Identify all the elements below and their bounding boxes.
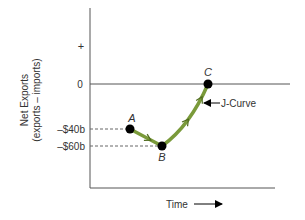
x-axis-label: Time [166, 199, 188, 210]
y-tick-plus: + [78, 40, 84, 52]
point-label-b: B [158, 151, 165, 163]
point-c [204, 80, 213, 89]
y-axis-label-line2: (exports – imports) [31, 58, 42, 141]
point-b [158, 142, 167, 151]
y-axis-label-line1: Net Exports [19, 74, 30, 126]
j-curve-line [130, 84, 208, 146]
j-curve-annotation: J-Curve [221, 98, 256, 109]
point-label-c: C [204, 66, 212, 78]
point-label-a: A [127, 112, 135, 124]
y-tick-minus40: –$40b [57, 124, 85, 135]
y-tick-zero: 0 [77, 79, 83, 90]
point-a [126, 125, 135, 134]
y-tick-minus60: –$60b [57, 141, 85, 152]
j-curve-chart: Net Exports (exports – imports) + 0 –$40… [0, 0, 305, 220]
